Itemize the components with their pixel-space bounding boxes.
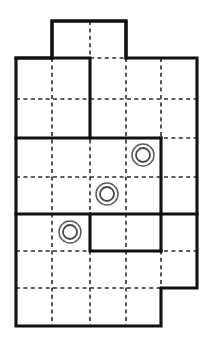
figure-background	[0, 0, 216, 343]
puzzle-figure	[0, 0, 216, 343]
puzzle-diagram	[0, 0, 216, 343]
